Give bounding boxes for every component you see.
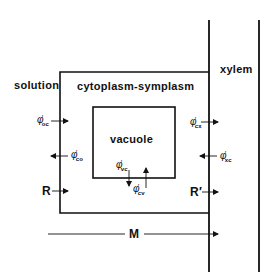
flux-xc-label: φ′xc xyxy=(220,151,232,161)
flux-co-label: φ′co xyxy=(71,150,83,160)
prime-mark: ′ xyxy=(42,114,43,121)
prime-mark: ′ xyxy=(76,149,77,156)
flux-oc-label: φ′oc xyxy=(37,115,49,125)
cytoplasm-label: cytoplasm-symplasm xyxy=(77,81,194,92)
flux-subscript: cx xyxy=(195,123,202,129)
net-flux-r-label: R xyxy=(42,185,51,197)
solution-label: solution xyxy=(14,80,59,91)
prime-mark: ′ xyxy=(195,116,196,123)
prime-mark: ′ xyxy=(138,183,139,190)
net-flux-m-label: M xyxy=(129,228,139,240)
xylem-label: xylem xyxy=(220,64,253,75)
flux-cx-label: φ′cx xyxy=(190,117,202,127)
flux-cv-label: φ′cv xyxy=(133,184,145,194)
flux-subscript: co xyxy=(76,156,83,162)
vacuole-label: vacuole xyxy=(110,134,153,145)
flux-subscript: oc xyxy=(42,121,49,127)
flux-vc-label: φ′vc xyxy=(116,160,128,170)
flux-subscript: xc xyxy=(225,157,232,163)
flux-subscript: cv xyxy=(138,190,145,196)
prime-mark: ′ xyxy=(225,150,226,157)
flux-subscript: vc xyxy=(121,166,128,172)
net-flux-r-prime-label: R′ xyxy=(190,186,202,198)
prime-mark: ′ xyxy=(121,159,122,166)
